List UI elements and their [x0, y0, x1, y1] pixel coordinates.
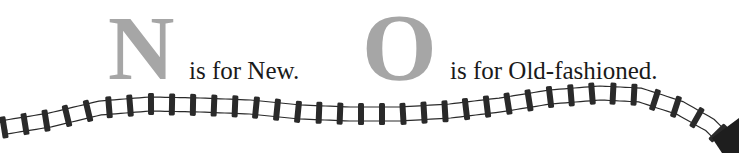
locomotive-icon — [712, 118, 739, 153]
alphabet-page: N is for New. O is for Old-fashioned. — [0, 0, 739, 153]
railroad-track-icon — [0, 0, 739, 153]
